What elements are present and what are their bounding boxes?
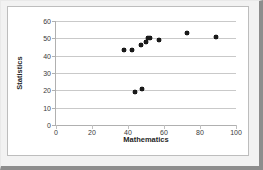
scatter-chart: 0102030405060020406080100 Mathematics St… xyxy=(8,7,248,155)
gridline-y xyxy=(56,56,236,57)
x-axis-title: Mathematics xyxy=(56,135,236,144)
x-axis-line xyxy=(55,125,236,126)
y-axis-tick xyxy=(52,21,56,22)
gridline-y xyxy=(56,90,236,91)
gridline-y xyxy=(56,21,236,22)
y-axis-tick-label: 30 xyxy=(43,70,51,77)
gridline-y xyxy=(56,108,236,109)
data-point xyxy=(129,48,135,54)
y-axis-tick xyxy=(52,38,56,39)
y-axis-tick-label: 0 xyxy=(47,122,51,129)
gridline-y xyxy=(56,73,236,74)
data-point xyxy=(185,30,191,36)
y-axis-tick xyxy=(52,56,56,57)
y-axis-tick xyxy=(52,90,56,91)
y-axis-title: Statistics xyxy=(15,21,25,125)
y-axis-tick xyxy=(52,108,56,109)
data-point xyxy=(156,37,162,43)
screenshot-root: 0102030405060020406080100 Mathematics St… xyxy=(0,0,263,170)
y-axis-tick-label: 50 xyxy=(43,35,51,42)
plot-area: 0102030405060020406080100 xyxy=(56,21,236,125)
data-point xyxy=(138,42,144,48)
y-axis-tick-label: 10 xyxy=(43,104,51,111)
y-axis-tick-label: 60 xyxy=(43,18,51,25)
data-point xyxy=(122,48,128,54)
y-axis-tick-label: 20 xyxy=(43,87,51,94)
y-axis-tick-label: 40 xyxy=(43,52,51,59)
y-axis-tick xyxy=(52,73,56,74)
